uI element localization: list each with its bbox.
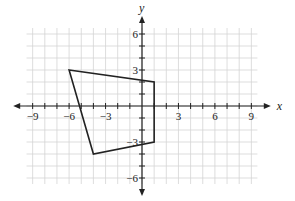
quadrilateral — [69, 70, 154, 154]
x-tick-label: 3 — [176, 110, 182, 122]
x-tick-label: 6 — [212, 110, 218, 122]
x-tick-label: −9 — [27, 110, 39, 122]
x-arrow-left-icon — [13, 103, 20, 109]
x-tick-label: −3 — [100, 110, 112, 122]
y-tick-label: 6 — [133, 28, 139, 40]
x-tick-label: −6 — [63, 110, 75, 122]
y-arrow-up-icon — [139, 16, 145, 23]
x-arrow-right-icon — [264, 103, 271, 109]
coordinate-plane: −9−6−336963−3−6 x y — [0, 0, 295, 201]
y-tick-label: 3 — [133, 64, 139, 76]
x-axis-label: x — [276, 99, 283, 113]
x-tick-label: 9 — [249, 110, 255, 122]
y-tick-label: −6 — [126, 172, 138, 184]
axes — [13, 16, 271, 196]
plotted-shapes — [69, 70, 154, 154]
y-axis-label: y — [138, 1, 145, 15]
y-arrow-down-icon — [139, 189, 145, 196]
